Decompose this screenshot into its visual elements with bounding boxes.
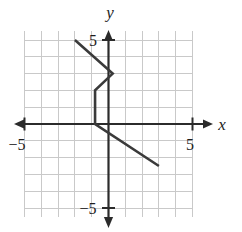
y-axis-arrow-down-icon [104, 217, 113, 228]
x-axis-arrow-right-icon [203, 119, 213, 128]
coordinate-plane-figure: −5 5 5 −5 x y [0, 0, 242, 232]
x-axis-label-neg5: −5 [8, 136, 25, 153]
x-axis-name-label: x [217, 115, 226, 134]
y-axis-name-label: y [104, 3, 114, 22]
piecewise-zigzag-path [75, 40, 159, 166]
graph-canvas: −5 5 5 −5 x y [0, 0, 242, 232]
y-axis-label-neg5: −5 [79, 200, 96, 217]
function-curve [75, 40, 159, 166]
y-axis-label-pos5: 5 [89, 32, 97, 49]
x-axis-label-pos5: 5 [186, 136, 194, 153]
x-axis [14, 118, 213, 131]
x-axis-arrow-left-icon [14, 119, 24, 128]
